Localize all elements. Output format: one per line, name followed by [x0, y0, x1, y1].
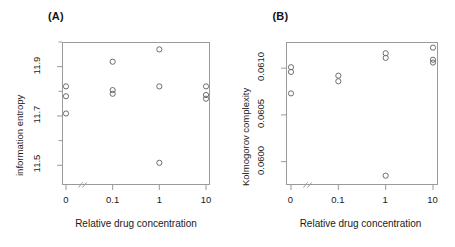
panel-b-data-point [288, 91, 293, 96]
panel-b-x-axis-title: Relative drug concentration [280, 218, 442, 229]
scatter-figure: (A) information entropy Relative drug co… [0, 0, 455, 247]
panel-a: (A) information entropy Relative drug co… [0, 0, 228, 247]
panel-b: (B) Kolmogorov complexity Relative drug … [228, 0, 455, 247]
panel-a-data-point [157, 160, 162, 165]
panel-a-data-point [157, 47, 162, 52]
panel-a-x-axis-title: Relative drug concentration [55, 218, 217, 229]
panel-b-data-point [430, 45, 435, 50]
panel-a-y-tick-label: 11.5 [31, 144, 42, 184]
panel-b-y-tick-label: 0.0600 [254, 140, 265, 180]
panel-b-data-point [335, 73, 340, 78]
panel-a-y-tick-label: 11.7 [31, 94, 42, 134]
panel-a-x-tick-label: 1 [139, 194, 179, 205]
panel-a-data-point [203, 96, 208, 101]
panel-a-data-point [203, 84, 208, 89]
panel-b-y-tick-label: 0.0605 [254, 93, 265, 133]
panel-b-x-tick-label: 10 [413, 194, 453, 205]
panel-a-x-tick-label: 0.1 [93, 194, 133, 205]
panel-a-x-tick-label: 10 [186, 194, 226, 205]
panel-a-data-point [157, 84, 162, 89]
panel-a-x-tick-label: 0 [46, 194, 86, 205]
panel-b-x-tick-label: 0.1 [318, 194, 358, 205]
panel-a-y-tick-label: 11.9 [31, 45, 42, 85]
panel-b-y-tick-label: 0.0610 [254, 47, 265, 87]
panel-a-data-point [63, 111, 68, 116]
panel-a-data-point [63, 84, 68, 89]
panel-a-data-point [110, 59, 115, 64]
panel-b-data-point [383, 173, 388, 178]
panel-a-data-point [110, 91, 115, 96]
panel-a-data-point [63, 94, 68, 99]
panel-b-x-tick-label: 1 [365, 194, 405, 205]
panel-b-x-tick-label: 0 [271, 194, 311, 205]
panel-b-data-point [335, 79, 340, 84]
